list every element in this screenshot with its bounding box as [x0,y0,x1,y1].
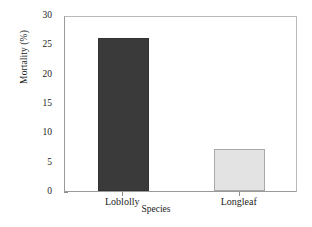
bar-loblolly [98,38,149,191]
y-axis-tick-label: 5 [0,157,58,169]
y-axis-tick-label: 10 [0,127,58,139]
bar-chart: Mortality (%) 051015202530 LoblollyLongl… [0,0,312,227]
y-axis-tick-label: 30 [0,10,58,22]
y-axis-tick-mark [64,192,68,193]
plot-area [64,16,297,192]
bar-longleaf [214,149,265,191]
y-axis-tick-label: 25 [0,39,58,51]
y-axis-tick-label: 0 [0,186,58,198]
y-axis-tick-label: 15 [0,98,58,110]
x-axis-title: Species [0,204,312,214]
y-axis-tick-label: 20 [0,69,58,81]
